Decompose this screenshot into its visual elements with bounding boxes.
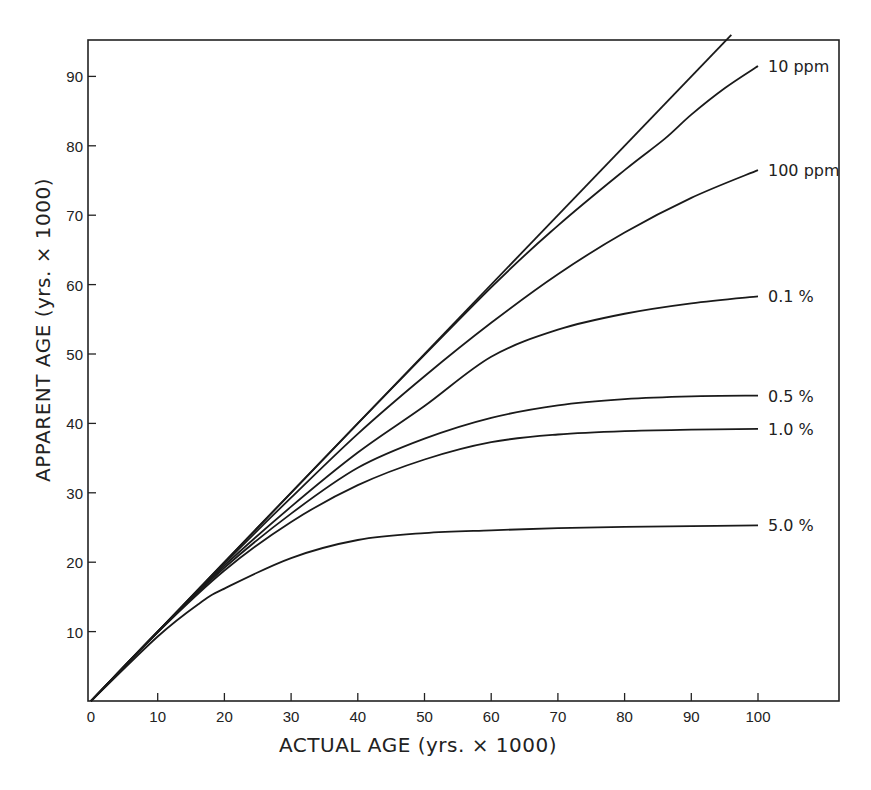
curve-label: 10 ppm [768, 57, 829, 76]
x-tick-label: 0 [87, 708, 95, 725]
curve-0-1- [91, 296, 758, 701]
y-tick-label: 10 [66, 624, 83, 641]
x-tick-label: 30 [283, 708, 300, 725]
curve-100-ppm [91, 170, 758, 701]
y-tick-label: 90 [66, 68, 83, 85]
y-tick-label: 30 [66, 485, 83, 502]
curve-label: 0.5 % [768, 387, 814, 406]
chart: 0102030405060708090100 10203040506070809… [0, 0, 871, 790]
y-tick-label: 40 [66, 415, 83, 432]
curve-1-0- [91, 429, 758, 701]
x-axis-ticks: 0102030405060708090100 [87, 693, 771, 725]
curve-0-5- [91, 396, 758, 701]
y-tick-label: 50 [66, 346, 83, 363]
y-tick-label: 70 [66, 207, 83, 224]
x-tick-label: 50 [416, 708, 433, 725]
curve-label: 100 ppm [768, 161, 840, 180]
x-tick-label: 80 [616, 708, 633, 725]
curve-labels: 10 ppm100 ppm0.1 %0.5 %1.0 %5.0 % [768, 57, 840, 535]
curve-10-ppm [91, 66, 758, 701]
y-axis-title: APPARENT AGE (yrs. × 1000) [31, 178, 55, 482]
curves [91, 35, 758, 701]
y-tick-label: 80 [66, 138, 83, 155]
x-tick-label: 20 [216, 708, 233, 725]
x-tick-label: 90 [683, 708, 700, 725]
curve-5-0- [91, 525, 758, 701]
curve-label: 1.0 % [768, 420, 814, 439]
curve-label: 5.0 % [768, 516, 814, 535]
y-axis-ticks: 102030405060708090 [66, 68, 96, 640]
curve-label: 0.1 % [768, 287, 814, 306]
x-tick-label: 40 [349, 708, 366, 725]
y-tick-label: 20 [66, 554, 83, 571]
x-tick-label: 70 [550, 708, 567, 725]
y-tick-label: 60 [66, 277, 83, 294]
x-tick-label: 60 [483, 708, 500, 725]
x-tick-label: 10 [149, 708, 166, 725]
x-tick-label: 100 [745, 708, 770, 725]
x-axis-title: ACTUAL AGE (yrs. × 1000) [279, 733, 557, 757]
